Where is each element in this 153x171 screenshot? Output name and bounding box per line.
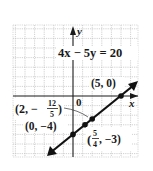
point-5over4-neg3 (82, 122, 88, 128)
point-5-0 (118, 93, 124, 99)
point-label-2-den: 5 (50, 110, 54, 119)
x-axis-label: x (128, 97, 135, 109)
point-label-p3-rest: , −3) (99, 133, 121, 146)
point-label-2-num: 12 (48, 99, 56, 108)
point-label-p3-den: 4 (93, 140, 97, 149)
y-axis-label: y (75, 25, 82, 37)
point-0-neg4 (70, 132, 76, 138)
point-label-2-close: ) (58, 102, 62, 116)
point-label-p3-num: 5 (93, 129, 97, 138)
point-label-p3-open: ( (87, 132, 91, 147)
leader-line (64, 108, 88, 117)
origin-label: 0 (76, 96, 82, 108)
coordinate-graph: 4x − 5y = 20 y x 0 (5, 0) (2, − 12 5 ) (… (0, 0, 153, 171)
point-label-5-0: (5, 0) (91, 77, 116, 90)
point-2-neg12over5 (89, 116, 95, 122)
point-label-2-open: (2, − (15, 102, 38, 116)
equation-label: 4x − 5y = 20 (58, 46, 122, 60)
y-axis-arrow-icon (70, 26, 76, 35)
point-label-0-neg4: (0, −4) (25, 120, 57, 133)
